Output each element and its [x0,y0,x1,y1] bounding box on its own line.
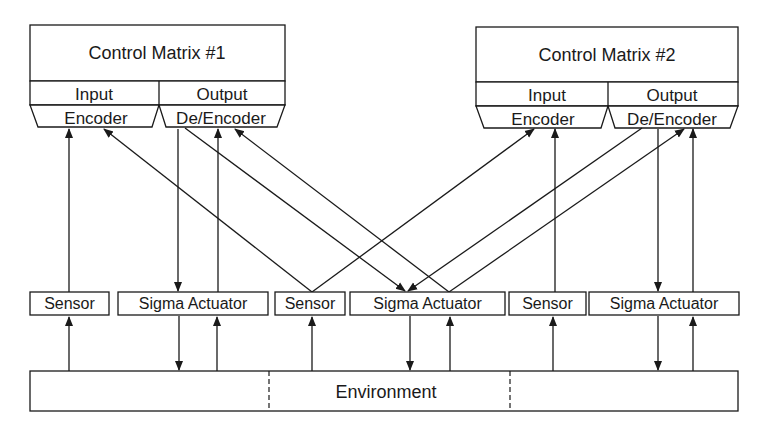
sensor-2-label: Sensor [285,295,336,312]
control-matrix-1-title: Control Matrix #1 [88,43,225,63]
sigma-actuator-2-label: Sigma Actuator [373,295,482,312]
cm1-input-encoder-label: Encoder [64,109,128,128]
control-matrix-2-io-row [476,82,738,106]
environment: Environment [30,371,738,411]
control-matrix-2-title: Control Matrix #2 [538,45,675,65]
cm2-input-label: Input [528,86,566,105]
signal-arrows [69,128,693,292]
sigma-actuator-3-label: Sigma Actuator [610,295,719,312]
cm2-output-encoder-label: De/Encoder [627,110,717,129]
control-matrix-diagram: Control Matrix #1 Input Output Encoder D… [0,0,761,430]
sensor-1-label: Sensor [44,295,95,312]
control-matrix-1: Control Matrix #1 Input Output Encoder D… [30,25,285,128]
environment-arrows [69,316,693,371]
sigma-actuator-1-label: Sigma Actuator [139,295,248,312]
cm1-output-label: Output [196,85,247,104]
cm1-output-encoder-label: De/Encoder [176,109,266,128]
node-row: Sensor Sigma Actuator Sensor Sigma Actua… [30,292,739,315]
environment-label: Environment [335,382,436,402]
cm1-input-label: Input [75,85,113,104]
cm2-output-label: Output [646,86,697,105]
control-matrix-2: Control Matrix #2 Input Output Encoder D… [476,27,738,129]
sensor-3-label: Sensor [522,295,573,312]
cm2-input-encoder-label: Encoder [511,110,575,129]
